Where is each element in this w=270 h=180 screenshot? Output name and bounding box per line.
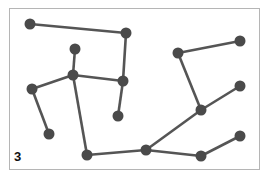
- graph-edge: [146, 150, 201, 156]
- graph-node: [196, 105, 207, 116]
- graph-node: [82, 150, 93, 161]
- graph-node: [27, 84, 38, 95]
- graph-edge: [178, 53, 201, 110]
- graph-edge: [201, 136, 240, 156]
- graph-edge: [146, 110, 201, 150]
- graph-node: [141, 145, 152, 156]
- graph-node: [235, 131, 246, 142]
- graph-edge: [32, 75, 73, 89]
- graph-node: [118, 76, 129, 87]
- graph-node: [235, 81, 246, 92]
- graph-edge: [87, 150, 146, 155]
- graph-node: [68, 70, 79, 81]
- graph-node: [113, 111, 124, 122]
- graph-node: [235, 36, 246, 47]
- graph-edge: [30, 24, 126, 33]
- graph-node: [196, 151, 207, 162]
- graph-node: [70, 44, 81, 55]
- graph-edge: [73, 75, 123, 81]
- graph-edge: [73, 75, 87, 155]
- graph-edge: [178, 41, 240, 53]
- panel-number-label: 3: [14, 149, 21, 164]
- graph-node: [173, 48, 184, 59]
- graph-edge: [123, 33, 126, 81]
- graph-node: [44, 129, 55, 140]
- graph-canvas: [0, 0, 270, 180]
- graph-node: [25, 19, 36, 30]
- graph-edge: [201, 86, 240, 110]
- graph-node: [121, 28, 132, 39]
- graph-edge: [32, 89, 49, 134]
